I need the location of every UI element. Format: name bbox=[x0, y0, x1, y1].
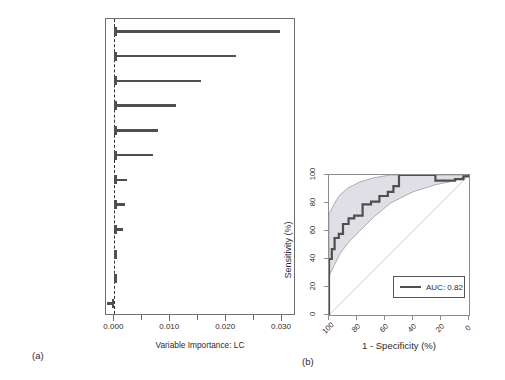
x-axis-tick bbox=[281, 315, 282, 321]
roc-y-tick bbox=[324, 230, 328, 231]
panel-a-label: (a) bbox=[32, 350, 44, 361]
panel-b-label: (b) bbox=[302, 356, 314, 367]
roc-x-tick bbox=[384, 316, 385, 320]
roc-y-tick-label: 0 bbox=[308, 312, 317, 316]
roc-x-tick bbox=[468, 316, 469, 320]
variable-importance-panel: 0.0000.0100.0200.030 miR_18a_5pStagemiR_… bbox=[0, 0, 300, 380]
roc-x-tick bbox=[356, 316, 357, 320]
importance-bar bbox=[114, 55, 236, 58]
x-axis-tick-label: 0.020 bbox=[215, 322, 235, 331]
variable-importance-row bbox=[106, 143, 294, 168]
bar-origin-cap bbox=[114, 200, 116, 209]
variable-importance-row bbox=[106, 118, 294, 143]
roc-x-tick-label: 60 bbox=[378, 322, 390, 334]
roc-x-tick-label: 0 bbox=[463, 323, 472, 332]
x-axis-tick bbox=[141, 315, 142, 320]
roc-panel: 020406080100 100806040200 Sensitivity (%… bbox=[300, 168, 505, 380]
importance-bar bbox=[114, 129, 158, 132]
bar-origin-cap bbox=[114, 250, 116, 259]
importance-bar bbox=[114, 80, 201, 83]
x-axis-tick bbox=[197, 315, 198, 320]
roc-x-tick bbox=[412, 316, 413, 320]
roc-x-tick bbox=[440, 316, 441, 320]
importance-bar bbox=[114, 30, 280, 33]
variable-importance-row bbox=[106, 291, 294, 316]
roc-y-tick-label: 20 bbox=[308, 282, 317, 290]
bar-origin-cap bbox=[114, 126, 116, 135]
bar-origin-cap bbox=[114, 225, 116, 234]
x-axis-tick bbox=[225, 315, 226, 321]
roc-x-tick-label: 20 bbox=[434, 322, 446, 334]
figure-canvas: 0.0000.0100.0200.030 miR_18a_5pStagemiR_… bbox=[0, 0, 505, 380]
roc-y-tick bbox=[324, 202, 328, 203]
x-axis-tick bbox=[253, 315, 254, 320]
bar-origin-cap bbox=[114, 175, 116, 184]
variable-importance-row bbox=[106, 242, 294, 267]
bar-origin-cap bbox=[112, 299, 114, 308]
x-axis-tick bbox=[113, 315, 114, 321]
importance-bar bbox=[114, 154, 153, 157]
bar-origin-cap bbox=[114, 52, 116, 61]
variable-importance-row bbox=[106, 192, 294, 217]
roc-x-tick-label: 40 bbox=[406, 322, 418, 334]
variable-importance-row bbox=[106, 19, 294, 44]
roc-y-tick bbox=[324, 174, 328, 175]
variable-importance-row bbox=[106, 44, 294, 69]
roc-y-tick-label: 40 bbox=[308, 254, 317, 262]
roc-y-tick-label: 100 bbox=[308, 168, 317, 181]
variable-importance-row bbox=[106, 267, 294, 292]
roc-y-tick-label: 80 bbox=[308, 198, 317, 206]
x-axis-title: Variable Importance: LC bbox=[105, 340, 295, 350]
bar-origin-cap bbox=[114, 151, 116, 160]
bar-origin-cap bbox=[114, 274, 116, 283]
variable-importance-row bbox=[106, 69, 294, 94]
variable-importance-row bbox=[106, 168, 294, 193]
roc-y-tick bbox=[324, 314, 328, 315]
x-axis-tick-label: 0.010 bbox=[159, 322, 179, 331]
x-axis-tick bbox=[169, 315, 170, 321]
roc-y-tick bbox=[324, 258, 328, 259]
roc-y-tick-label: 60 bbox=[308, 226, 317, 234]
legend-line-swatch bbox=[400, 286, 421, 289]
importance-bar bbox=[114, 104, 176, 107]
roc-legend: AUC: 0.82 bbox=[393, 276, 465, 298]
legend-auc-label: AUC: 0.82 bbox=[426, 283, 463, 292]
bar-origin-cap bbox=[114, 101, 116, 110]
bar-origin-cap bbox=[114, 27, 116, 36]
roc-x-tick-label: 100 bbox=[320, 320, 335, 335]
x-axis-tick-label: 0.000 bbox=[103, 322, 123, 331]
roc-y-axis-title: Sensitivity (%) bbox=[283, 221, 293, 278]
roc-y-tick bbox=[324, 286, 328, 287]
roc-x-axis-title: 1 - Specificity (%) bbox=[328, 340, 470, 351]
bar-origin-cap bbox=[114, 76, 116, 85]
variable-importance-plot-area bbox=[105, 18, 295, 315]
variable-importance-row bbox=[106, 93, 294, 118]
variable-importance-row bbox=[106, 217, 294, 242]
x-axis-tick-label: 0.030 bbox=[271, 322, 291, 331]
roc-x-tick-label: 80 bbox=[350, 322, 362, 334]
